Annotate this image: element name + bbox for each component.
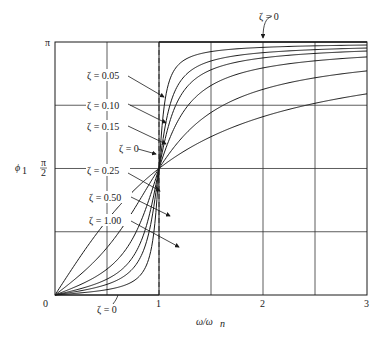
xtick-3: 3: [364, 298, 369, 309]
label-zeta0-mid: ζ = 0: [119, 143, 139, 155]
yaxis-label: ϕ 1: [15, 162, 27, 176]
label-zeta005: ζ = 0.05: [87, 70, 119, 82]
svg-text:ϕ: ϕ: [15, 162, 20, 173]
ytick-pi: π: [45, 37, 50, 48]
xtick-1: 1: [156, 298, 161, 309]
label-zeta010: ζ = 0.10: [87, 100, 119, 112]
label-zeta0-top: ζ = 0: [259, 11, 279, 23]
xtick-2: 2: [260, 298, 265, 309]
label-zeta025: ζ = 0.25: [87, 165, 119, 177]
label-zeta100: ζ = 1.00: [89, 215, 121, 227]
phase-chart: ζ = 0 ζ = 0.05 ζ = 0.10 ζ = 0.15 ζ = 0 ζ…: [0, 0, 382, 344]
svg-text:1: 1: [22, 165, 27, 176]
label-zeta0-bottom: ζ = 0: [97, 304, 117, 316]
label-zeta050: ζ = 0.50: [89, 192, 121, 204]
xtick-0: 0: [43, 298, 48, 309]
svg-text:2: 2: [41, 167, 46, 178]
xaxis-label: ω/ω n: [196, 316, 225, 329]
annotation-arrows: [113, 16, 272, 304]
label-zeta015: ζ = 0.15: [87, 121, 119, 133]
svg-text:n: n: [220, 318, 225, 329]
ytick-half-pi: π 2: [40, 157, 47, 178]
svg-text:ω/ω: ω/ω: [196, 316, 213, 327]
